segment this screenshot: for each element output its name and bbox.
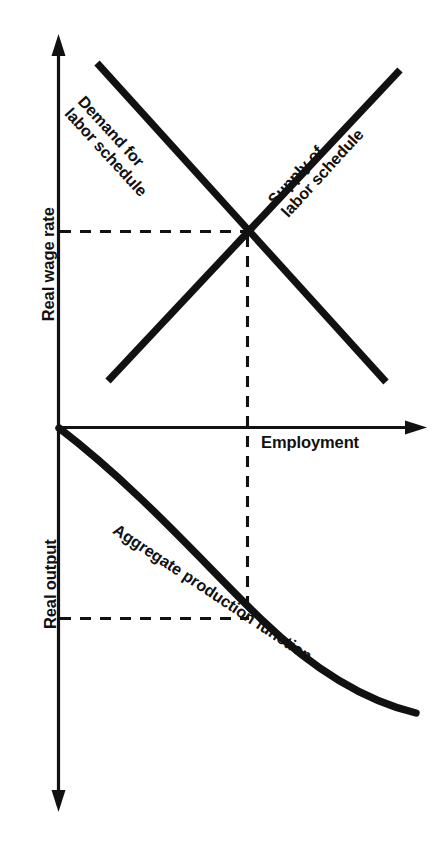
vertical-axis-down-arrow-icon xyxy=(52,790,66,812)
aggregate-production-function-curve xyxy=(59,428,416,713)
y-axis-label-real-output: Real output xyxy=(41,504,59,664)
supply-of-labor-curve xyxy=(108,70,400,381)
horizontal-axis-right-arrow-icon xyxy=(405,421,427,435)
demand-for-labor-curve xyxy=(97,63,386,382)
diagram-canvas xyxy=(0,0,444,844)
economics-diagram: Real wage rate Real output Employment De… xyxy=(0,0,444,844)
x-axis-label-employment: Employment xyxy=(261,433,359,451)
vertical-axis-up-arrow-icon xyxy=(52,34,66,56)
y-axis-label-real-wage-rate: Real wage rate xyxy=(39,184,57,344)
